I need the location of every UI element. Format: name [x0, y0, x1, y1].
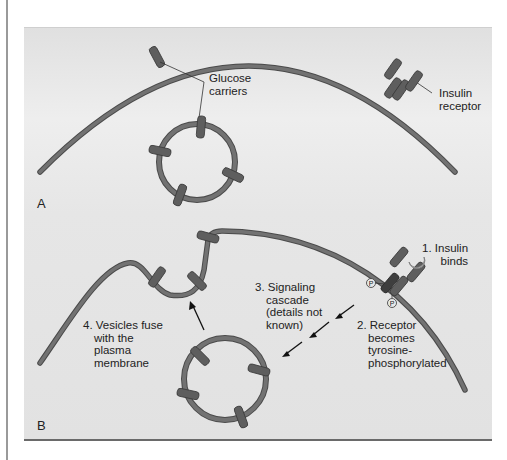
label-line: tyrosine- [357, 344, 447, 357]
fusion-arrow-icon [189, 301, 204, 330]
label-step-2: 2. Receptor becomes tyrosine- phosphoryl… [357, 319, 447, 369]
label-line: receptor [439, 100, 481, 113]
glucose-carrier-icon [148, 45, 165, 68]
activated-receptor-icon [380, 246, 426, 297]
label-line: plasma [83, 344, 163, 357]
svg-text:P: P [390, 300, 395, 307]
panel-a [40, 45, 455, 206]
label-line: cascade [255, 294, 322, 307]
label-line: (details not [255, 306, 322, 319]
label-line: carriers [209, 85, 251, 98]
label-line: becomes [357, 332, 447, 345]
label-line: known) [255, 319, 322, 332]
label-insulin-receptor: Insulin receptor [439, 87, 481, 112]
label-line: 3. Signaling [255, 281, 322, 294]
svg-text:P: P [369, 280, 374, 287]
figure-illustration: P P [0, 0, 507, 460]
label-line: 2. Receptor [357, 319, 447, 332]
label-line: Glucose [209, 72, 251, 85]
label-line: Insulin [439, 87, 481, 100]
panel-letter-b: B [37, 418, 46, 433]
label-line: 4. Vesicles fuse [83, 319, 163, 332]
label-line: binds [422, 255, 468, 268]
label-glucose-carriers: Glucose carriers [209, 72, 251, 97]
label-step-1: 1. Insulin binds [422, 242, 468, 267]
label-line: membrane [83, 357, 163, 370]
label-line: phosphorylated [357, 357, 447, 370]
label-line: 1. Insulin [422, 242, 468, 255]
label-step-3: 3. Signaling cascade (details not known) [255, 281, 322, 331]
label-line: with the [83, 332, 163, 345]
leader-line [416, 82, 432, 93]
insulin-receptor-icon [383, 58, 423, 102]
label-step-4: 4. Vesicles fuse with the plasma membran… [83, 319, 163, 369]
panel-letter-a: A [37, 196, 46, 211]
